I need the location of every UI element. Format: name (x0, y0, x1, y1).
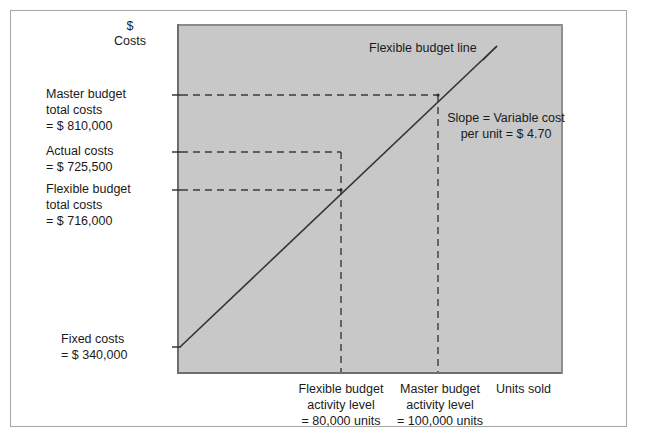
y-axis-line (177, 24, 179, 374)
label-fixed-costs: Fixed costs = $ 340,000 (61, 331, 191, 363)
chart-plot-area (178, 25, 562, 373)
annotation-slope: Slope = Variable cost per unit = $ 4.70 (446, 110, 566, 142)
plot-border-right (561, 24, 563, 374)
plot-border-top (178, 24, 563, 26)
x-axis-line (177, 372, 563, 374)
label-master-budget-total-costs: Master budget total costs = $ 810,000 (46, 86, 176, 134)
label-actual-costs: Actual costs = $ 725,500 (46, 143, 176, 175)
figure-container: $ Costs Master budget total costs = $ 81… (0, 0, 645, 448)
annotation-flexible-budget-line: Flexible budget line (369, 40, 477, 56)
x-axis-title: Units sold (496, 381, 586, 397)
label-master-budget-activity-level: Master budget activity level = 100,000 u… (377, 381, 503, 429)
label-flexible-budget-total-costs: Flexible budget total costs = $ 716,000 (46, 181, 176, 229)
y-axis-title: $ Costs (88, 19, 172, 49)
